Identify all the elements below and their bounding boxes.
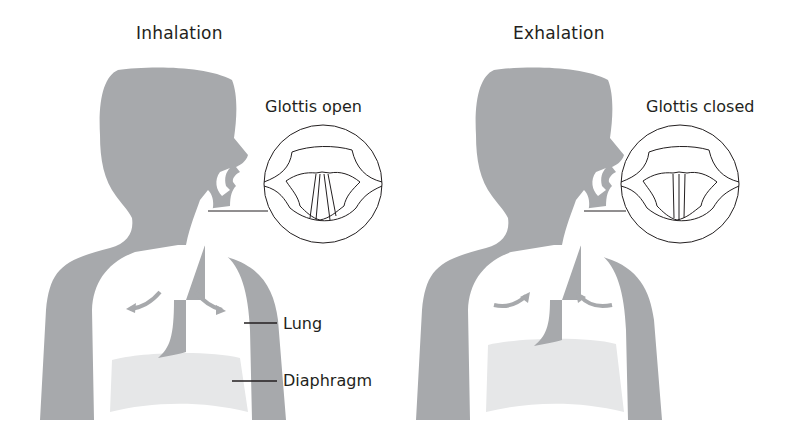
exhalation-figure <box>416 67 739 420</box>
respiration-diagram <box>0 0 797 436</box>
diaphragm <box>110 353 248 412</box>
inset-circle <box>264 125 382 243</box>
lower-outline <box>264 186 382 221</box>
vocal-cords-open <box>310 174 336 220</box>
inhalation-figure <box>40 67 382 420</box>
vocal-cords-closed <box>673 174 685 220</box>
diaphragm <box>486 339 624 412</box>
glottis-open-inset <box>264 125 382 243</box>
upper-outline <box>621 146 739 182</box>
lower-outline <box>621 186 739 221</box>
upper-outline <box>264 146 382 182</box>
glottis-closed-inset <box>621 125 739 243</box>
inset-circle <box>621 125 739 243</box>
